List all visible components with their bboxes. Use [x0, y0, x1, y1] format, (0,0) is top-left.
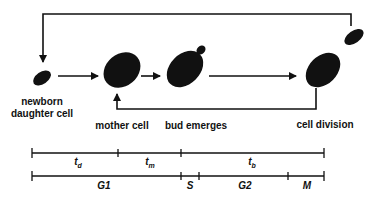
label-mother-cell: mother cell: [90, 120, 154, 132]
label-g2: G2: [234, 180, 256, 191]
newborn-cell: [30, 67, 53, 88]
label-bud-emerges: bud emerges: [160, 120, 232, 132]
label-td: td: [68, 156, 88, 169]
label-line-1: newborn: [5, 96, 79, 108]
dividing-mother-cell: [299, 46, 347, 94]
label-cell-division: cell division: [292, 119, 358, 131]
mother-cell: [96, 45, 147, 95]
timeline-phases-cycle: [32, 171, 324, 181]
budding-cell: [160, 44, 211, 95]
label-s: S: [183, 180, 197, 191]
label-line-2: daughter cell: [5, 108, 79, 120]
label-tb: tb: [242, 156, 262, 169]
label-newborn-daughter-cell: newborn daughter cell: [5, 96, 79, 120]
label-tm: tm: [140, 156, 160, 169]
label-m: M: [300, 180, 314, 191]
dividing-daughter-cell: [342, 26, 367, 48]
label-g1: G1: [93, 180, 115, 191]
bottom-return-arrow: [117, 88, 316, 109]
